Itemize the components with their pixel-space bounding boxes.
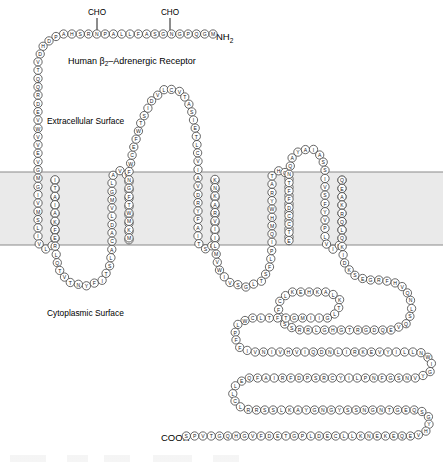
residue: A (211, 200, 219, 208)
residue: N (285, 170, 293, 178)
residue: R (84, 30, 92, 38)
residue: F (287, 374, 295, 382)
residue-circle (342, 348, 350, 356)
residue-circle (400, 348, 408, 356)
residue-circle (252, 406, 260, 414)
residue-circle (130, 143, 138, 151)
residue: E (358, 274, 366, 282)
residue: F (378, 374, 386, 382)
residue: E (402, 406, 410, 414)
residue-circle (211, 184, 219, 192)
residue-circle (189, 116, 197, 124)
residue-circle (406, 296, 414, 304)
residue-circle (253, 374, 261, 382)
residue-circle (34, 207, 42, 215)
residue: V (194, 157, 202, 165)
residue: L (257, 314, 265, 322)
residue: Q (379, 326, 387, 334)
residue-circle (356, 432, 364, 440)
residue: Y (419, 371, 427, 379)
residue-circle (321, 191, 329, 199)
residue-circle (34, 124, 42, 132)
residue: R (51, 242, 59, 250)
residue-circle (265, 432, 273, 440)
residue-circle (34, 141, 42, 149)
residue-circle (51, 242, 59, 250)
residue: L (52, 250, 60, 258)
residue: A (142, 30, 150, 38)
residue-circle (125, 209, 133, 217)
residue: E (191, 124, 199, 132)
residue-circle (231, 328, 239, 336)
residue-circle (234, 281, 242, 289)
residue-circle (335, 296, 343, 304)
residue: C (328, 374, 336, 382)
residue-circle (249, 280, 257, 288)
residue: E (373, 432, 381, 440)
residue-circle (259, 348, 267, 356)
residue-circle (236, 343, 244, 351)
residue: C (167, 85, 175, 93)
residue-circle (345, 374, 353, 382)
residue-circle (321, 166, 329, 174)
residue-circle (108, 187, 116, 195)
residue-circle (142, 30, 150, 38)
residue: G (320, 326, 328, 334)
residue-circle (249, 432, 257, 440)
residue: R (268, 188, 276, 196)
residue-circle (268, 213, 276, 221)
residue-circle (207, 432, 215, 440)
residue: N (259, 348, 267, 356)
residue-circle (285, 187, 293, 195)
residue-circle (327, 406, 335, 414)
residue-circle (398, 432, 406, 440)
residue: E (323, 432, 331, 440)
residue-circle (199, 432, 207, 440)
residue-circle (108, 229, 116, 237)
residue-circle (414, 431, 422, 439)
residue: G (108, 187, 116, 195)
residue-circle (376, 348, 384, 356)
residue-circle (338, 209, 346, 217)
residue: P (303, 374, 311, 382)
residue-circle (53, 259, 61, 267)
residue: W (125, 209, 133, 217)
residue: N (74, 280, 82, 288)
residue-circle (34, 149, 42, 157)
residue: E (367, 348, 375, 356)
residue-circle (267, 255, 275, 263)
residue-circle (262, 374, 270, 382)
residue: Y (335, 406, 343, 414)
residue-circle (285, 178, 293, 186)
residue-circle (192, 30, 200, 38)
residue: L (267, 255, 275, 263)
residue-circle (319, 406, 327, 414)
residue-circle (406, 432, 414, 440)
residue: I (392, 348, 400, 356)
residue-circle (167, 30, 175, 38)
residue-circle (118, 30, 126, 38)
residue-circle (287, 374, 295, 382)
residue: G (393, 406, 401, 414)
residue: W (34, 124, 42, 132)
residue: N (326, 348, 334, 356)
residue-circle (285, 170, 293, 178)
residue: S (321, 166, 329, 174)
residue-circle (51, 176, 59, 184)
residue: V (108, 204, 116, 212)
residue-circle (378, 374, 386, 382)
residue: A (194, 223, 202, 231)
residue: G (327, 406, 335, 414)
residue-circle (194, 190, 202, 198)
residue-circle (34, 132, 42, 140)
residue-circle (268, 221, 276, 229)
residue-circle (34, 191, 42, 199)
residue: F (285, 187, 293, 195)
residue: P (298, 432, 306, 440)
residue: T (207, 432, 215, 440)
residue: F (253, 374, 261, 382)
residue-circle (268, 197, 276, 205)
glycosylation-markers: CHO CHO (88, 8, 179, 30)
residue: E (390, 432, 398, 440)
residue-circle (338, 234, 346, 242)
